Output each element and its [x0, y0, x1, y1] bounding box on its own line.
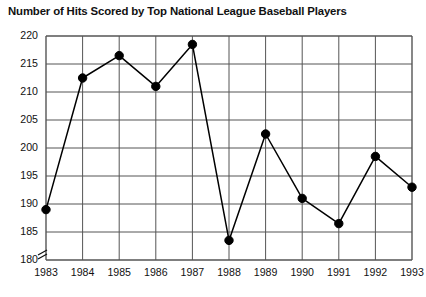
y-axis-tick-label: 180 [8, 254, 38, 265]
data-point-marker [152, 82, 160, 90]
x-axis-tick-label: 1993 [392, 267, 426, 278]
y-axis-tick-label: 205 [8, 114, 38, 125]
data-point-marker [371, 152, 379, 160]
plot-area: 1801851901952002052102152201983198419851… [0, 0, 426, 297]
data-point-marker [261, 130, 269, 138]
x-axis-tick-label: 1991 [319, 267, 359, 278]
y-axis-tick-label: 195 [8, 170, 38, 181]
x-axis-tick-label: 1987 [172, 267, 212, 278]
x-axis-tick-label: 1992 [355, 267, 395, 278]
y-axis-tick-label: 185 [8, 226, 38, 237]
data-point-marker [335, 219, 343, 227]
y-axis-tick-label: 215 [8, 58, 38, 69]
data-point-marker [42, 205, 50, 213]
y-axis-tick-label: 210 [8, 86, 38, 97]
data-point-marker [188, 40, 196, 48]
chart-figure: Number of Hits Scored by Top National Le… [0, 0, 426, 297]
x-axis-tick-label: 1984 [63, 267, 103, 278]
x-axis-tick-label: 1986 [136, 267, 176, 278]
data-point-marker [225, 236, 233, 244]
data-point-marker [408, 183, 416, 191]
x-axis-tick-label: 1988 [209, 267, 249, 278]
x-axis-tick-label: 1989 [246, 267, 286, 278]
y-axis-tick-label: 200 [8, 142, 38, 153]
data-point-marker [115, 51, 123, 59]
x-axis-tick-label: 1983 [26, 267, 66, 278]
y-axis-tick-label: 220 [8, 30, 38, 41]
x-axis-tick-label: 1990 [282, 267, 322, 278]
y-axis-tick-label: 190 [8, 198, 38, 209]
data-point-marker [298, 194, 306, 202]
data-point-marker [78, 74, 86, 82]
x-axis-tick-label: 1985 [99, 267, 139, 278]
line-chart-svg [0, 0, 426, 297]
